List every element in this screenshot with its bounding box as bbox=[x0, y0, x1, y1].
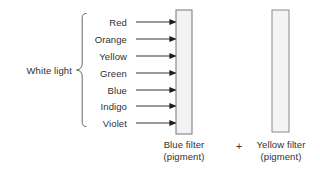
white-light-brace bbox=[76, 14, 86, 127]
figure-canvas: White light RedOrangeYellowGreenBlueIndi… bbox=[0, 0, 320, 176]
blue-filter-caption: Blue filter (pigment) bbox=[146, 139, 222, 162]
spectrum-label-violet: Violet bbox=[88, 118, 127, 129]
spectrum-label-indigo: Indigo bbox=[88, 101, 127, 112]
yellow-filter-name: Yellow filter bbox=[257, 139, 306, 150]
spectrum-label-blue: Blue bbox=[88, 85, 127, 96]
white-light-label: White light bbox=[4, 65, 72, 76]
light-ray-group bbox=[136, 22, 176, 123]
yellow-filter-caption: Yellow filter (pigment) bbox=[243, 139, 319, 162]
spectrum-label-yellow: Yellow bbox=[88, 51, 127, 62]
blue-filter-name: Blue filter bbox=[164, 139, 205, 150]
yellow-filter-sub: (pigment) bbox=[243, 151, 319, 163]
spectrum-label-orange: Orange bbox=[88, 34, 127, 45]
blue-filter-sub: (pigment) bbox=[146, 151, 222, 163]
plus-operator: + bbox=[236, 141, 242, 152]
filter-group bbox=[176, 10, 289, 134]
spectrum-label-red: Red bbox=[88, 17, 127, 28]
yellow-filter bbox=[272, 10, 289, 132]
blue-filter bbox=[176, 10, 192, 134]
spectrum-label-green: Green bbox=[88, 68, 127, 79]
